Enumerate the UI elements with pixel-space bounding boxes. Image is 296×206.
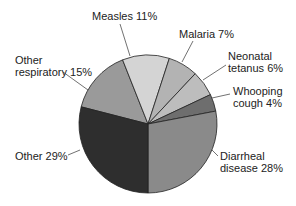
label-measles: Measles 11%: [92, 10, 157, 22]
label-other-respiratory: Other respiratory 15%: [15, 54, 92, 78]
leader-line: [212, 94, 230, 98]
label-whooping-line1: Whooping: [233, 85, 283, 97]
label-diarrheal-line1: Diarrheal: [220, 150, 283, 162]
pie-slice-diarrheal-disease: [148, 111, 217, 193]
label-diarrheal-line2: disease 28%: [220, 162, 283, 174]
label-neonatal-line1: Neonatal: [228, 50, 283, 62]
label-neonatal-line2: tetanus 6%: [228, 62, 283, 74]
label-malaria: Malaria 7%: [179, 28, 234, 40]
leader-line: [203, 65, 226, 80]
label-other-resp-line2: respiratory 15%: [15, 66, 92, 78]
leader-line: [120, 24, 130, 56]
leader-line: [212, 150, 218, 156]
label-neonatal-tetanus: Neonatal tetanus 6%: [228, 50, 283, 74]
label-other: Other 29%: [15, 150, 68, 162]
label-whooping-cough: Whooping cough 4%: [233, 85, 283, 109]
leader-line: [182, 41, 193, 62]
leader-line: [68, 150, 80, 155]
label-diarrheal-disease: Diarrheal disease 28%: [220, 150, 283, 174]
label-other-resp-line1: Other: [15, 54, 92, 66]
label-whooping-line2: cough 4%: [233, 97, 283, 109]
